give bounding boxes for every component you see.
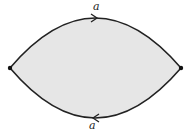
lens-diagram: a a <box>0 0 191 130</box>
lens-face <box>10 18 181 118</box>
vertex-left <box>8 66 12 70</box>
edge-bottom-label: a <box>89 119 96 130</box>
edge-top-label: a <box>93 0 100 13</box>
vertex-right <box>179 66 183 70</box>
